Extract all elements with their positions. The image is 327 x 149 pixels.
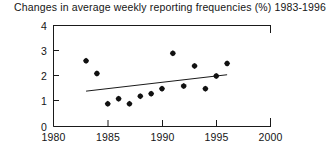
axis-frame — [54, 25, 272, 127]
data-point — [116, 96, 122, 102]
data-point — [192, 63, 198, 69]
data-point — [224, 60, 230, 66]
data-point — [202, 86, 208, 92]
x-tick-label-1985: 1985 — [96, 131, 120, 143]
data-point — [83, 58, 89, 64]
x-tick-label-2000: 2000 — [258, 131, 282, 143]
data-point — [105, 101, 111, 107]
data-point — [137, 93, 143, 99]
data-point — [170, 50, 176, 56]
data-point — [181, 83, 187, 89]
y-tick-label-2: 2 — [41, 70, 47, 82]
data-point — [159, 86, 165, 92]
data-point — [213, 73, 219, 79]
y-axis-ticks — [54, 26, 60, 127]
data-point — [126, 101, 132, 107]
data-point-group — [83, 50, 230, 107]
chart-plot: 4 3 2 1 0 1980 1985 1990 1995 2000 — [0, 0, 327, 149]
x-tick-label-1980: 1980 — [41, 131, 65, 143]
x-tick-label-1990: 1990 — [150, 131, 174, 143]
y-tick-label-4: 4 — [41, 20, 47, 32]
data-point — [148, 91, 154, 97]
chart-container: Changes in average weekly reporting freq… — [0, 0, 327, 149]
data-point — [94, 70, 100, 76]
x-tick-label-1995: 1995 — [204, 131, 228, 143]
y-tick-label-3: 3 — [41, 45, 47, 57]
x-axis-ticks — [54, 120, 217, 127]
y-tick-label-1: 1 — [41, 95, 47, 107]
